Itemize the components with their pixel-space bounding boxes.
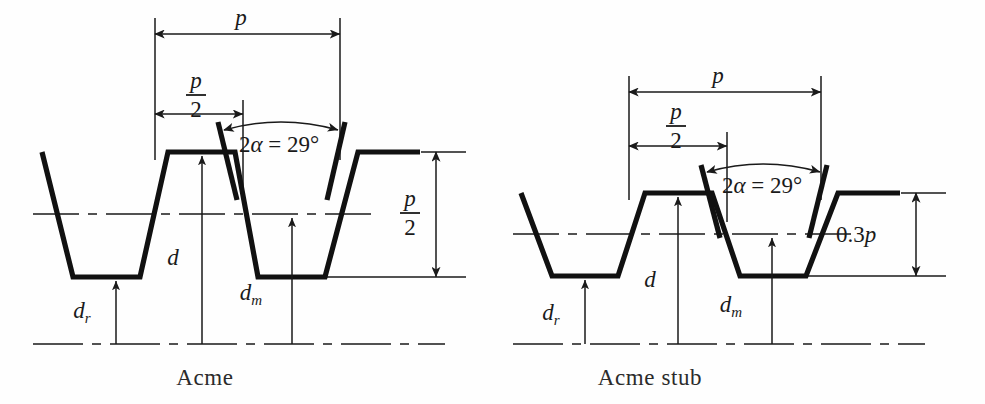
figure-canvas: pp2p22α = 29°drddmAcmepp20.3p2α = 29°drd… <box>0 0 985 404</box>
angle-arc-acme-stub <box>707 164 820 172</box>
dim-label-pitch-acme: p <box>233 5 247 30</box>
dim-label-den-half-pitch-acme-stub: 2 <box>670 128 682 153</box>
dim-label-num-thread-height-acme: p <box>402 186 416 211</box>
caption-acme-stub: Acme stub <box>598 365 702 390</box>
angle-arc-acme <box>224 122 338 130</box>
dim-label-thread-height-acme-stub: 0.3p <box>836 222 876 247</box>
diagram-acme-stub: pp20.3p2α = 29°drddmAcme stub <box>513 63 946 390</box>
dim-label-num-half-pitch-acme: p <box>188 68 202 93</box>
leader-label-dr-acme-stub: dr <box>542 300 560 328</box>
leader-label-d-acme-stub: d <box>644 267 656 292</box>
dim-label-den-thread-height-acme: 2 <box>404 215 416 240</box>
dim-label-den-half-pitch-acme: 2 <box>190 97 202 122</box>
angle-label-acme: 2α = 29° <box>239 132 319 157</box>
angle-label-acme-stub: 2α = 29° <box>722 173 802 198</box>
caption-acme: Acme <box>176 365 233 390</box>
angle-flank-right-acme <box>327 122 345 200</box>
leader-label-dr-acme: dr <box>73 298 91 326</box>
dim-label-num-half-pitch-acme-stub: p <box>668 99 682 124</box>
dim-label-pitch-acme-stub: p <box>710 63 724 88</box>
thread-profile-figure: pp2p22α = 29°drddmAcmepp20.3p2α = 29°drd… <box>0 0 985 404</box>
leader-label-d-acme: d <box>167 245 179 270</box>
leader-label-dm-acme: dm <box>240 280 263 308</box>
leader-label-dm-acme-stub: dm <box>720 292 743 320</box>
diagram-acme: pp2p22α = 29°drddmAcme <box>33 5 466 390</box>
